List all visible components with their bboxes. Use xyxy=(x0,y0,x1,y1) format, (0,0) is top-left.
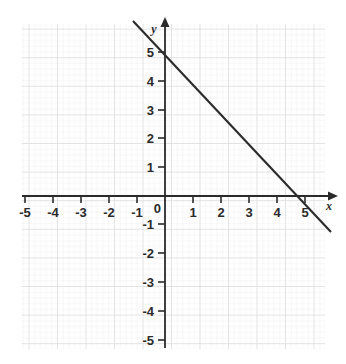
y-tick-label--1: -1 xyxy=(142,217,154,232)
y-tick-label-3: 3 xyxy=(147,103,154,118)
x-axis-name: x xyxy=(325,199,332,213)
origin-label: 0 xyxy=(154,201,161,216)
y-tick-label-4: 4 xyxy=(147,74,155,89)
grid-background xyxy=(22,24,325,349)
x-tick-label-4: 4 xyxy=(273,205,281,220)
y-tick-label-5: 5 xyxy=(147,45,154,60)
y-tick-label--2: -2 xyxy=(142,246,154,261)
x-tick-label--1: -1 xyxy=(131,205,143,220)
x-tick-label--5: -5 xyxy=(19,205,31,220)
coordinate-graph: -5 -4 -3 -2 -1 1 2 3 4 5 5 4 3 2 1 -1 -2… xyxy=(0,0,346,364)
x-tick-label-2: 2 xyxy=(217,205,224,220)
x-tick-label--2: -2 xyxy=(103,205,115,220)
x-tick-label--4: -4 xyxy=(47,205,59,220)
y-tick-label--5: -5 xyxy=(142,333,154,348)
y-tick-label-1: 1 xyxy=(147,160,154,175)
x-tick-label-1: 1 xyxy=(189,205,196,220)
y-tick-label--3: -3 xyxy=(142,275,154,290)
graph-canvas: -5 -4 -3 -2 -1 1 2 3 4 5 5 4 3 2 1 -1 -2… xyxy=(0,0,346,364)
y-axis-name: y xyxy=(149,22,157,36)
x-tick-label-3: 3 xyxy=(245,205,252,220)
x-tick-label--3: -3 xyxy=(75,205,87,220)
y-tick-label-2: 2 xyxy=(147,131,154,146)
y-tick-label--4: -4 xyxy=(142,304,154,319)
